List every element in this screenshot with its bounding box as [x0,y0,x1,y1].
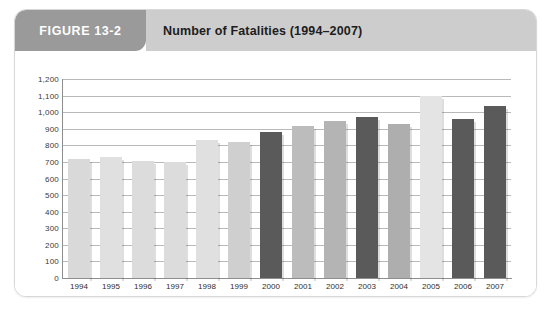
y-axis-tick-label: 1,000 [15,108,59,117]
plot-region [63,79,511,278]
y-axis-tick-label: 900 [15,124,59,133]
y-axis-tick-label: 0 [15,274,59,283]
bar [196,140,218,278]
figure-title: Number of Fatalities (1994–2007) [163,24,362,38]
bar-shadow [250,145,252,281]
bar-shadow [314,129,316,281]
y-axis-tick-label: 1,200 [15,75,59,84]
bar [292,126,314,278]
bar-shadow [186,165,188,281]
bar [260,132,282,278]
bar-shadow [218,143,220,281]
bar [164,162,186,278]
figure-number-label: FIGURE 13-2 [39,24,121,38]
y-axis-tick-label: 1,100 [15,91,59,100]
y-axis-tick-label: 300 [15,224,59,233]
bar [388,124,410,278]
y-axis-tick-label: 800 [15,141,59,150]
bar-shadow [442,99,444,281]
figure-number-badge: FIGURE 13-2 [15,10,146,51]
bar-shadow [282,135,284,281]
y-axis-tick-label: 700 [15,157,59,166]
bar [484,106,506,278]
bar [132,161,154,278]
bar-shadow [378,120,380,281]
bar [420,96,442,278]
bar-shadow [154,164,156,281]
x-axis-line [62,278,512,279]
bar [452,119,474,278]
bar-shadow [410,127,412,281]
bar-shadow [506,109,508,281]
chart-area: 1,2001,1001,0009008007006005004003002001… [15,51,537,297]
bar-series [63,79,511,278]
y-axis-tick-label: 500 [15,191,59,200]
figure-card: FIGURE 13-2 Number of Fatalities (1994–2… [14,9,537,297]
bar-shadow [474,122,476,281]
bar-shadow [346,124,348,281]
x-axis-tick-label: 2007 [475,282,515,291]
bar-shadow [90,162,92,281]
x-axis-labels: 1994199519961997199819992000200120022003… [63,282,511,296]
y-axis-tick-label: 200 [15,240,59,249]
y-axis-labels: 1,2001,1001,0009008007006005004003002001… [15,79,59,278]
bar [356,117,378,278]
bar [68,159,90,278]
y-axis-tick-label: 600 [15,174,59,183]
bar [100,157,122,278]
figure-header: FIGURE 13-2 Number of Fatalities (1994–2… [15,10,537,51]
bar-shadow [122,160,124,281]
figure-title-bar: Number of Fatalities (1994–2007) [146,10,537,51]
y-axis-tick-label: 100 [15,257,59,266]
bar [228,142,250,278]
bar [324,121,346,278]
y-axis-tick-label: 400 [15,207,59,216]
